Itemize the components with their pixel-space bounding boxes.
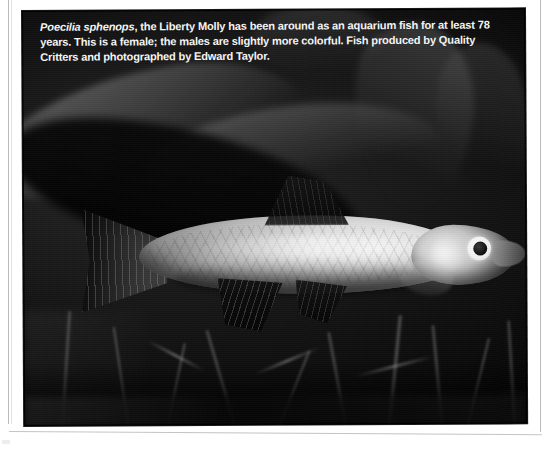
page-gutter-line-right xyxy=(540,0,541,432)
liberty-molly-fish xyxy=(81,200,522,322)
page-gutter-line-bottom xyxy=(9,431,542,435)
fish-snout xyxy=(491,240,525,266)
caption-line3: Critters and photographed by Edward Tayl… xyxy=(40,50,269,63)
photograph-plate: Poecilia sphenops, the Liberty Molly has… xyxy=(22,8,527,426)
caption-line1-rest: , the Liberty Molly has been around as a… xyxy=(134,19,474,33)
photo-caption: Poecilia sphenops, the Liberty Molly has… xyxy=(40,17,510,65)
page-gutter-line-left xyxy=(8,0,9,424)
page-scan-smudge xyxy=(2,440,10,444)
aquarium-photograph xyxy=(22,8,527,426)
page-gutter-line-left-secondary xyxy=(11,0,12,424)
scanned-page: Poecilia sphenops, the Liberty Molly has… xyxy=(0,0,553,456)
fish-eye-pupil xyxy=(473,242,487,256)
aquarium-substrate-band xyxy=(24,394,527,426)
caption-scientific-name: Poecilia sphenops xyxy=(40,20,134,32)
